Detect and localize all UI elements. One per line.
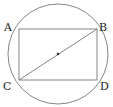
center-point (57, 53, 60, 56)
label-b: B (99, 21, 107, 34)
label-a: A (3, 21, 13, 34)
label-d: D (100, 80, 109, 93)
label-c: C (3, 80, 11, 93)
geometry-diagram: A B C D (0, 0, 113, 107)
